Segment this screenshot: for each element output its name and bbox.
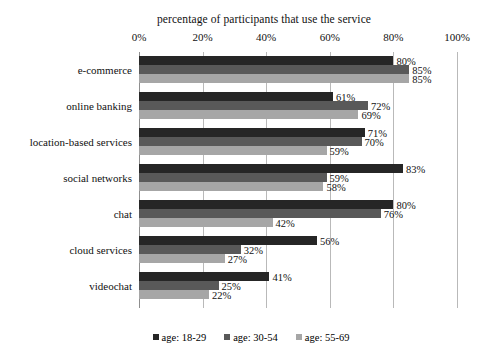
- bar[interactable]: 76%: [139, 209, 381, 218]
- category-label: e-commerce: [7, 64, 139, 76]
- bar[interactable]: 71%: [139, 128, 365, 137]
- bar[interactable]: 85%: [139, 74, 409, 83]
- bar-group: location-based services71%70%59%: [139, 128, 457, 155]
- bar-group: social networks83%59%58%: [139, 164, 457, 191]
- bar-value-label: 85%: [412, 73, 431, 84]
- bar[interactable]: 25%: [139, 281, 219, 290]
- bar-value-label: 69%: [361, 109, 380, 120]
- bar-value-label: 42%: [276, 217, 295, 228]
- gridline-100: [457, 52, 458, 308]
- bar[interactable]: 85%: [139, 65, 409, 74]
- x-tick-label: 60%: [320, 30, 340, 44]
- legend-swatch-icon: [224, 334, 230, 340]
- bar[interactable]: 59%: [139, 146, 327, 155]
- bar[interactable]: 72%: [139, 101, 368, 110]
- legend-swatch-icon: [296, 334, 302, 340]
- bar[interactable]: 41%: [139, 272, 269, 281]
- bar[interactable]: 59%: [139, 173, 327, 182]
- category-label: location-based services: [7, 136, 139, 148]
- x-tick-label: 40%: [256, 30, 276, 44]
- bar[interactable]: 27%: [139, 254, 225, 263]
- category-label: cloud services: [7, 244, 139, 256]
- bar-value-label: 59%: [330, 145, 349, 156]
- bar[interactable]: 83%: [139, 164, 403, 173]
- bar-value-label: 58%: [326, 181, 345, 192]
- x-tick-label: 0%: [132, 30, 147, 44]
- bar-group: e-commerce80%85%85%: [139, 56, 457, 83]
- category-label: videochat: [7, 280, 139, 292]
- x-tick-label: 80%: [383, 30, 403, 44]
- bar-value-label: 22%: [212, 289, 231, 300]
- bar-group: cloud services56%32%27%: [139, 236, 457, 263]
- bar[interactable]: 58%: [139, 182, 323, 191]
- bar[interactable]: 56%: [139, 236, 317, 245]
- bar[interactable]: 80%: [139, 56, 393, 65]
- legend-item[interactable]: age: 18-29: [153, 331, 207, 344]
- x-axis-tick-labels: 0%20%40%60%80%100%: [139, 30, 457, 46]
- bar-value-label: 27%: [228, 253, 247, 264]
- x-tick-label: 20%: [193, 30, 213, 44]
- chart-title: percentage of participants that use the …: [0, 13, 502, 26]
- legend-item[interactable]: age: 30-54: [224, 331, 278, 344]
- bar-value-label: 70%: [365, 136, 384, 147]
- bar-value-label: 83%: [406, 163, 425, 174]
- bar[interactable]: 61%: [139, 92, 333, 101]
- category-label: social networks: [7, 172, 139, 184]
- legend-swatch-icon: [153, 334, 159, 340]
- bar-value-label: 56%: [320, 235, 339, 246]
- bar-group: chat80%76%42%: [139, 200, 457, 227]
- bar[interactable]: 42%: [139, 218, 273, 227]
- plot-area: e-commerce80%85%85%online banking61%72%6…: [139, 52, 457, 308]
- bar[interactable]: 32%: [139, 245, 241, 254]
- bar-group: online banking61%72%69%: [139, 92, 457, 119]
- bar-group: videochat41%25%22%: [139, 272, 457, 299]
- bar[interactable]: 22%: [139, 290, 209, 299]
- legend-label: age: 55-69: [305, 332, 350, 343]
- legend-item[interactable]: age: 55-69: [296, 331, 350, 344]
- chart-canvas: percentage of participants that use the …: [0, 0, 502, 360]
- bar[interactable]: 70%: [139, 137, 362, 146]
- bar-value-label: 76%: [384, 208, 403, 219]
- bar-value-label: 41%: [272, 271, 291, 282]
- bar[interactable]: 80%: [139, 200, 393, 209]
- category-label: online banking: [7, 100, 139, 112]
- chart-legend: age: 18-29age: 30-54age: 55-69: [0, 331, 502, 344]
- category-label: chat: [7, 208, 139, 220]
- legend-label: age: 30-54: [233, 332, 278, 343]
- x-tick-label: 100%: [444, 30, 470, 44]
- legend-label: age: 18-29: [162, 332, 207, 343]
- bar[interactable]: 69%: [139, 110, 358, 119]
